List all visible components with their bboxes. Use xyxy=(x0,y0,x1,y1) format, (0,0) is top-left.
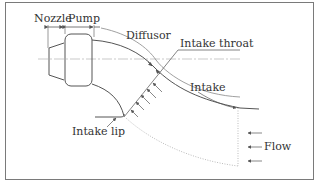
label-nozzle: Nozzle xyxy=(34,13,72,24)
stream-tube-dotted xyxy=(126,118,238,166)
waterjet-diagram xyxy=(0,0,317,185)
flow-arrows xyxy=(248,133,262,161)
label-flow: Flow xyxy=(264,141,291,152)
intake-lip-shape xyxy=(95,114,124,117)
label-pump: Pump xyxy=(68,13,100,24)
label-intake-throat: Intake throat xyxy=(180,38,253,49)
pump-shape xyxy=(65,34,92,86)
nozzle-shape xyxy=(49,43,64,80)
label-intake-lip: Intake lip xyxy=(72,126,125,137)
label-diffusor: Diffusor xyxy=(126,30,171,41)
inflow-arrows xyxy=(131,83,162,117)
duct-lower-wall xyxy=(92,84,124,116)
throat-line xyxy=(124,50,178,117)
label-intake: Intake xyxy=(190,82,226,93)
intake-ramp xyxy=(240,108,259,109)
